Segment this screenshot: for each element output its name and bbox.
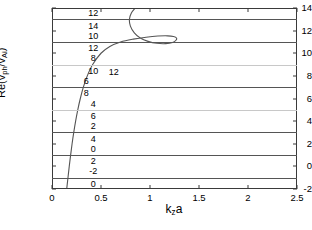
horizontal-line-y3 [52, 132, 297, 133]
figure: 1214101281068462402-20 12 14121086420-2 … [0, 0, 312, 230]
mode-number-label: 2 [91, 157, 96, 166]
y-tick-mark [52, 53, 56, 54]
y-tick-label: 8 [264, 71, 312, 81]
x-tick-label: 2 [245, 193, 250, 203]
x-tick-mark [52, 185, 53, 189]
curve-annotation: 12 [109, 68, 119, 77]
y-tick-label: 10 [264, 49, 312, 59]
mode-number-label: 0 [91, 179, 96, 188]
x-tick-label: 1 [147, 193, 152, 203]
mode-number-label: 8 [91, 54, 96, 63]
y-tick-mark [52, 75, 56, 76]
y-tick-mark [52, 121, 56, 122]
horizontal-line-y1 [52, 155, 297, 156]
x-tick-mark [248, 185, 249, 189]
y-tick-label: 4 [264, 116, 312, 126]
y-tick-label: -2 [264, 184, 312, 194]
horizontal-line-yneg1 [52, 178, 297, 179]
mode-number-label: 12 [88, 44, 98, 53]
y-axis-title: Re(vph/vAi) [0, 48, 9, 98]
y-tick-label: 14 [264, 3, 312, 13]
mode-number-label: 6 [84, 76, 89, 85]
y-tick-label: 0 [264, 162, 312, 172]
mode-number-label: 4 [91, 134, 96, 143]
mode-number-label: 10 [88, 66, 98, 75]
y-tick-label: 6 [264, 94, 312, 104]
mode-number-label: 14 [88, 21, 98, 30]
y-tick-mark [52, 98, 56, 99]
x-tick-label: 1.5 [192, 193, 205, 203]
y-tick-mark [52, 143, 56, 144]
mode-number-label: 10 [88, 31, 98, 40]
mode-number-label: 2 [91, 122, 96, 131]
y-axis-title-suffix: ) [0, 48, 7, 52]
y-axis-title-sub-ph: ph [0, 66, 9, 74]
x-tick-mark [199, 185, 200, 189]
horizontal-line-y5 [52, 110, 297, 111]
x-axis-title: kza [166, 202, 183, 217]
x-tick-mark-top [248, 8, 249, 12]
x-tick-mark-top [199, 8, 200, 12]
mode-number-label: 8 [84, 89, 89, 98]
x-tick-mark [150, 185, 151, 189]
mode-number-label: -2 [89, 167, 97, 176]
y-tick-label: 2 [264, 139, 312, 149]
y-axis-title-sub-ai: Ai [0, 51, 9, 58]
y-tick-mark [52, 8, 56, 9]
x-tick-mark-top [101, 8, 102, 12]
x-tick-label: 2.5 [290, 193, 303, 203]
y-tick-label: 12 [264, 26, 312, 36]
mode-number-label: 12 [88, 9, 98, 18]
mode-number-label: 4 [91, 99, 96, 108]
mode-number-label: 0 [91, 144, 96, 153]
x-tick-label: 0.5 [94, 193, 107, 203]
x-tick-mark [101, 185, 102, 189]
plot-area: 1214101281068462402-20 12 [52, 8, 297, 189]
y-tick-mark [52, 166, 56, 167]
y-tick-mark [52, 189, 56, 190]
x-tick-mark-top [52, 8, 53, 12]
y-tick-mark [52, 30, 56, 31]
y-axis-title-prefix: Re(v [0, 75, 7, 98]
mode-number-label: 6 [91, 112, 96, 121]
y-axis-title-mid: /v [0, 58, 7, 67]
x-tick-mark-top [150, 8, 151, 12]
x-axis-title-tail: a [176, 202, 183, 216]
x-tick-label: 0 [49, 193, 54, 203]
